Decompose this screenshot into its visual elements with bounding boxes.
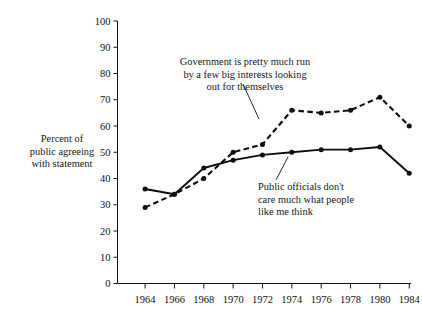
data-point-marker — [348, 108, 353, 113]
x-tick-label: 1966 — [164, 294, 185, 305]
annotation-public-officials: Public officials don't care much what pe… — [258, 181, 408, 219]
y-axis-title: Percent of public agreeing with statemen… — [24, 133, 100, 171]
x-tick-label: 1978 — [340, 294, 361, 305]
x-tick-label: 1980 — [369, 294, 390, 305]
y-tick-label: 30 — [100, 199, 111, 210]
y-tick-label: 50 — [100, 147, 111, 158]
y-tick-label: 60 — [100, 121, 111, 132]
data-point-marker — [143, 187, 148, 192]
x-axis-tick-labels: 1964196619681970197219741976197819801984 — [135, 294, 421, 305]
data-point-marker — [407, 124, 412, 129]
data-point-marker — [201, 166, 206, 171]
y-tick-label: 100 — [95, 16, 111, 27]
data-point-marker — [348, 147, 353, 152]
data-point-marker — [289, 108, 294, 113]
y-tick-label: 0 — [105, 278, 110, 289]
data-point-marker — [407, 171, 412, 176]
x-tick-label: 1968 — [193, 294, 214, 305]
y-tick-label: 70 — [100, 94, 111, 105]
data-point-marker — [260, 142, 265, 147]
data-point-marker — [231, 150, 236, 155]
data-point-marker — [377, 145, 382, 150]
x-tick-label: 1972 — [252, 294, 273, 305]
y-axis-ticks — [114, 21, 118, 284]
y-tick-label: 40 — [100, 173, 111, 184]
data-point-marker — [143, 205, 148, 210]
y-tick-label: 20 — [100, 226, 111, 237]
x-tick-label: 1974 — [281, 294, 303, 305]
x-tick-label: 1970 — [223, 294, 244, 305]
x-axis-ticks — [145, 284, 409, 289]
data-point-marker — [172, 192, 177, 197]
data-point-marker — [289, 150, 294, 155]
data-point-marker — [377, 95, 382, 100]
y-tick-label: 90 — [100, 42, 111, 53]
data-point-marker — [319, 147, 324, 152]
chart-container: 0102030405060708090100 19641966196819701… — [0, 0, 422, 327]
leader-line-public-officials — [276, 157, 288, 180]
data-point-marker — [201, 176, 206, 181]
data-point-marker — [260, 152, 265, 157]
data-point-marker — [319, 110, 324, 115]
annotation-government: Government is pretty much run by a few b… — [150, 56, 340, 94]
x-tick-label: 1976 — [311, 294, 332, 305]
data-point-marker — [231, 158, 236, 163]
y-tick-label: 10 — [100, 252, 111, 263]
x-tick-label: 1964 — [135, 294, 157, 305]
y-tick-label: 80 — [100, 68, 111, 79]
x-tick-label: 1984 — [399, 294, 421, 305]
